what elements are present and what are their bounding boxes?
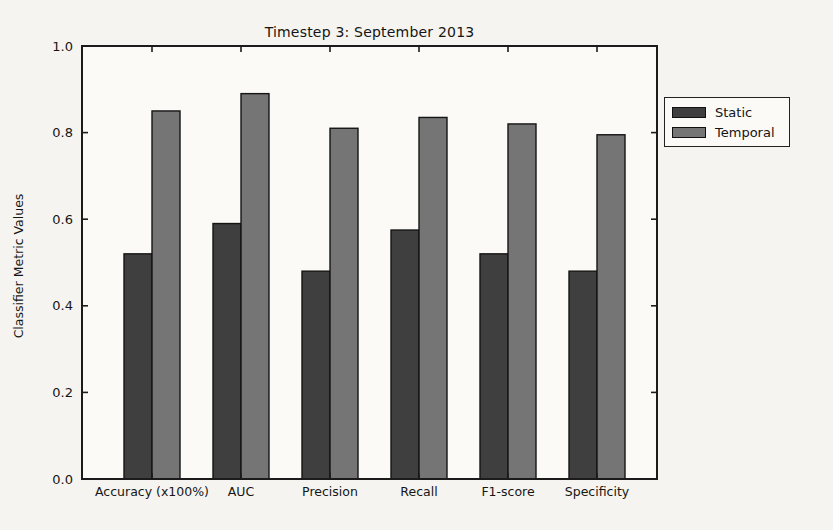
bar-static-1 xyxy=(213,224,241,479)
y-tick-label: 0.4 xyxy=(52,298,73,313)
x-tick-label: Precision xyxy=(302,484,358,499)
x-tick-label: F1-score xyxy=(481,484,535,499)
bar-static-2 xyxy=(302,271,330,479)
bar-temporal-3 xyxy=(419,117,447,479)
bar-static-5 xyxy=(569,271,597,479)
legend-entry-static: Static xyxy=(672,104,789,120)
y-tick-label: 0.8 xyxy=(52,125,73,140)
legend-label-temporal: Temporal xyxy=(715,125,775,140)
bar-temporal-2 xyxy=(330,128,358,479)
y-tick-label: 0.2 xyxy=(52,385,73,400)
legend-label-static: Static xyxy=(715,105,752,120)
y-tick-label: 0.0 xyxy=(52,472,73,487)
legend-entry-temporal: Temporal xyxy=(672,124,789,140)
chart-legend: Static Temporal xyxy=(664,97,790,147)
y-tick-label: 1.0 xyxy=(52,39,73,54)
bar-temporal-4 xyxy=(508,124,536,479)
bar-static-3 xyxy=(391,230,419,479)
x-tick-label: AUC xyxy=(228,484,255,499)
x-tick-label: Specificity xyxy=(565,484,630,499)
legend-swatch-static xyxy=(672,107,706,118)
bar-chart-canvas: 0.00.20.40.60.81.0Accuracy (x100%)AUCPre… xyxy=(0,0,833,530)
y-tick-label: 0.6 xyxy=(52,212,73,227)
bar-temporal-0 xyxy=(152,111,180,479)
scanned-figure-page: Timestep 3: September 2013 Classifier Me… xyxy=(0,0,833,530)
bar-static-0 xyxy=(124,254,152,479)
bar-static-4 xyxy=(480,254,508,479)
legend-swatch-temporal xyxy=(672,127,706,138)
x-tick-label: Accuracy (x100%) xyxy=(95,484,209,499)
bar-temporal-1 xyxy=(241,94,269,479)
x-tick-label: Recall xyxy=(400,484,437,499)
bar-temporal-5 xyxy=(597,135,625,479)
